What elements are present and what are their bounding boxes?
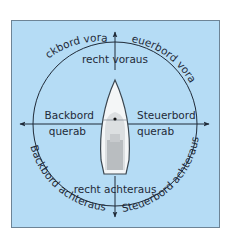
label-ahead: recht voraus bbox=[82, 53, 148, 65]
relative-bearings-diagram: recht voraus recht achteraus Backbord qu… bbox=[0, 0, 232, 236]
cockpit-inner bbox=[110, 134, 120, 142]
label-starboard-beam-1: Steuerbord bbox=[137, 109, 196, 121]
label-port-beam-1: Backbord bbox=[45, 109, 94, 121]
mast-dot bbox=[113, 117, 116, 120]
label-astern: recht achteraus bbox=[74, 183, 157, 195]
label-starboard-beam-2: querab bbox=[137, 125, 175, 137]
label-port-beam-2: querab bbox=[49, 125, 87, 137]
cockpit bbox=[107, 140, 123, 170]
